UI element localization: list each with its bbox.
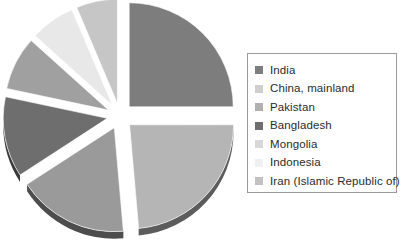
legend-item-label: Iran (Islamic Republic of)	[270, 176, 400, 188]
legend-swatch-icon	[255, 159, 263, 167]
legend-item-label: Mongolia	[270, 139, 317, 151]
pie-slice[interactable]	[130, 125, 234, 229]
legend-item[interactable]: China, mainland	[255, 80, 396, 99]
legend-item-label: China, mainland	[270, 83, 355, 95]
legend-item-label: Pakistan	[270, 102, 315, 114]
legend-swatch-icon	[255, 177, 263, 185]
chart-legend: IndiaChina, mainlandPakistanBangladeshMo…	[247, 53, 397, 193]
pie-chart-plot	[0, 0, 245, 243]
legend-swatch-icon	[255, 122, 263, 130]
legend-swatch-icon	[255, 85, 263, 93]
legend-item[interactable]: Indonesia	[255, 154, 396, 173]
legend-swatch-icon	[255, 103, 263, 111]
legend-item[interactable]: Bangladesh	[255, 117, 396, 136]
pie-slice[interactable]	[129, 3, 233, 107]
legend-swatch-icon	[255, 140, 263, 148]
legend-item[interactable]: Pakistan	[255, 98, 396, 117]
legend-swatch-icon	[255, 66, 263, 74]
legend-item-label: Bangladesh	[270, 120, 332, 132]
legend-item[interactable]: Mongolia	[255, 135, 396, 154]
pie-chart-figure: IndiaChina, mainlandPakistanBangladeshMo…	[0, 0, 407, 243]
legend-item[interactable]: India	[255, 61, 396, 80]
legend-item[interactable]: Iran (Islamic Republic of)	[255, 172, 396, 191]
legend-item-label: Indonesia	[270, 157, 321, 169]
legend-item-label: India	[270, 65, 295, 77]
